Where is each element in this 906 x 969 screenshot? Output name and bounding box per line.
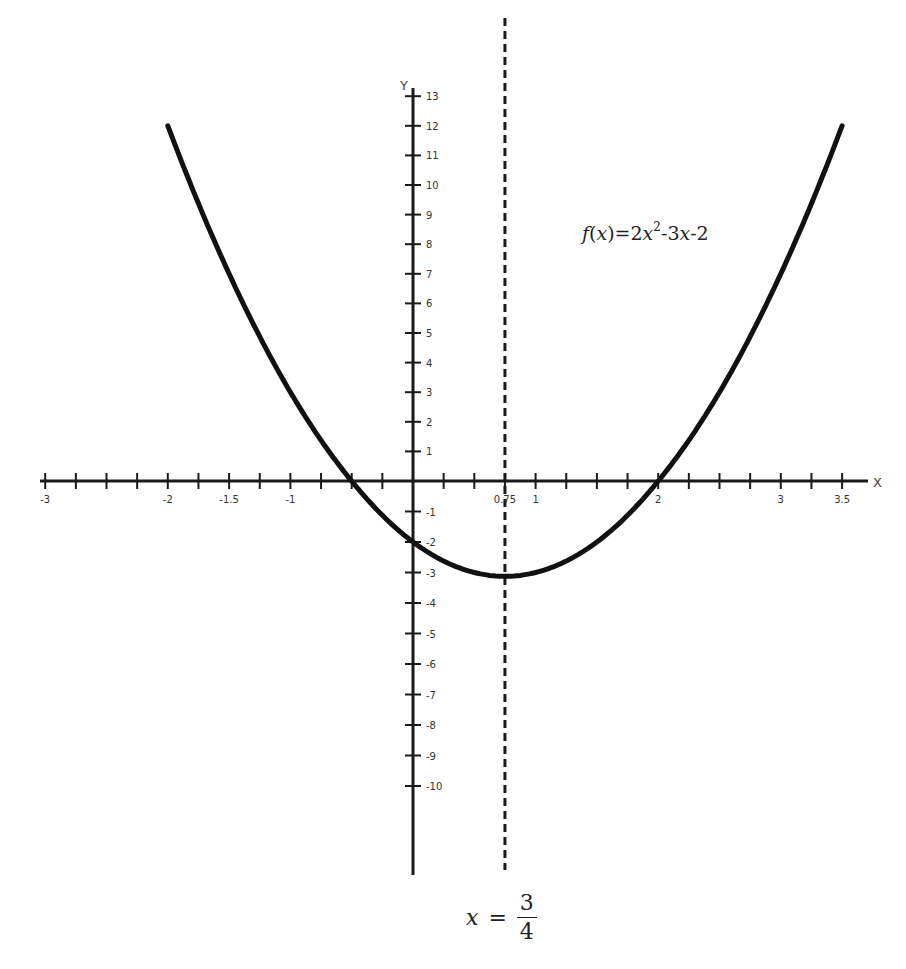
y-tick-label: 6: [426, 298, 432, 309]
y-tick-label: 8: [426, 239, 432, 250]
y-tick-label: 1: [426, 446, 432, 457]
x-tick-label: 3.5: [834, 494, 850, 505]
y-tick-label: -1: [426, 507, 436, 518]
function-label: f(x)=2x2-3x-2: [582, 222, 709, 244]
x-tick-label: 3: [778, 494, 784, 505]
x-tick-label: -3: [40, 494, 50, 505]
axis-of-symmetry-label: x = 3 4: [466, 892, 537, 943]
x-axis: -3-2-1.5-10.751233.5X: [40, 473, 882, 505]
numerator: 3: [518, 892, 536, 917]
y-tick-label: 10: [426, 180, 439, 191]
parabola-chart: -3-2-1.5-10.751233.5X 13121110987654321-…: [0, 0, 906, 969]
y-tick-label: 12: [426, 121, 439, 132]
x-tick-label: 2: [655, 494, 661, 505]
variable-x: x: [466, 905, 478, 930]
y-tick-label: -6: [426, 659, 436, 670]
y-tick-label: 13: [426, 91, 439, 102]
x-tick-label: -1.5: [219, 494, 239, 505]
y-axis: 13121110987654321-1-2-3-4-5-6-7-8-9-10Y: [399, 78, 442, 875]
y-tick-label: -4: [426, 598, 436, 609]
x-tick-label: -2: [163, 494, 173, 505]
y-tick-label: 5: [426, 328, 432, 339]
y-tick-label: -8: [426, 720, 436, 731]
y-tick-label: -7: [426, 690, 436, 701]
y-tick-label: 4: [426, 358, 432, 369]
y-tick-label: -10: [426, 781, 442, 792]
y-tick-label: -2: [426, 537, 436, 548]
y-tick-label: -9: [426, 751, 436, 762]
y-tick-label: 9: [426, 210, 432, 221]
y-tick-label: 7: [426, 269, 432, 280]
x-tick-label: 1: [532, 494, 538, 505]
y-axis-name: Y: [399, 78, 408, 93]
x-tick-label: -1: [285, 494, 295, 505]
equals-sign: =: [488, 905, 506, 930]
x-axis-name: X: [873, 475, 882, 490]
y-tick-label: 11: [426, 150, 439, 161]
denominator: 4: [520, 918, 534, 943]
fraction: 3 4: [517, 892, 537, 943]
y-tick-label: -3: [426, 568, 436, 579]
y-tick-label: -5: [426, 629, 436, 640]
y-tick-label: 2: [426, 417, 432, 428]
y-tick-label: 3: [426, 387, 432, 398]
